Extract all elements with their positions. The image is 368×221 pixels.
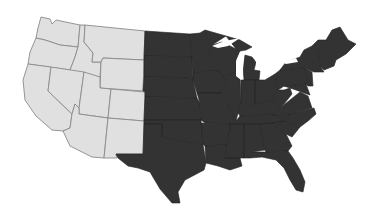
state-wyoming (100, 58, 144, 91)
state-montana (84, 25, 145, 62)
state-arkansas (201, 123, 231, 146)
us-map (0, 0, 368, 221)
state-new-mexico (104, 118, 144, 158)
state-indiana (241, 80, 255, 108)
state-colorado (108, 89, 145, 121)
east-region (116, 27, 356, 203)
state-north-dakota (144, 31, 192, 57)
state-nebraska (143, 77, 197, 98)
state-kansas (144, 97, 201, 120)
state-florida (250, 151, 305, 192)
west-region (23, 17, 145, 158)
state-south-dakota (144, 56, 193, 80)
